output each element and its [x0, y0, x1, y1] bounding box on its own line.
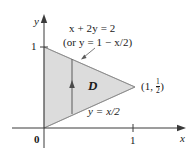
upper-boundary-equation-line1: x + 2y = 2 [69, 23, 115, 34]
y-tick-label-1: 1 [31, 41, 37, 52]
lower-boundary-equation: y = x/2 [88, 106, 120, 117]
x-axis-label: x [180, 133, 185, 144]
y-axis-arrowhead [41, 14, 47, 23]
x-tick-label-1: 1 [130, 135, 136, 146]
vertex-point-label: (1, 12) [141, 78, 164, 95]
upper-boundary-equation-line2: (or y = 1 − x/2) [63, 37, 132, 48]
region-label-d: D [88, 79, 97, 92]
equation-leader-line [84, 48, 95, 57]
vertex-point-open: (1, [141, 80, 156, 92]
y-axis-label: y [34, 16, 39, 27]
origin-label: 0 [34, 134, 40, 145]
figure-region-d: x + 2y = 2 (or y = 1 − x/2) D y = x/2 (1… [0, 0, 195, 158]
x-axis-arrowhead [177, 125, 186, 131]
vertex-point-close: ) [160, 80, 164, 92]
